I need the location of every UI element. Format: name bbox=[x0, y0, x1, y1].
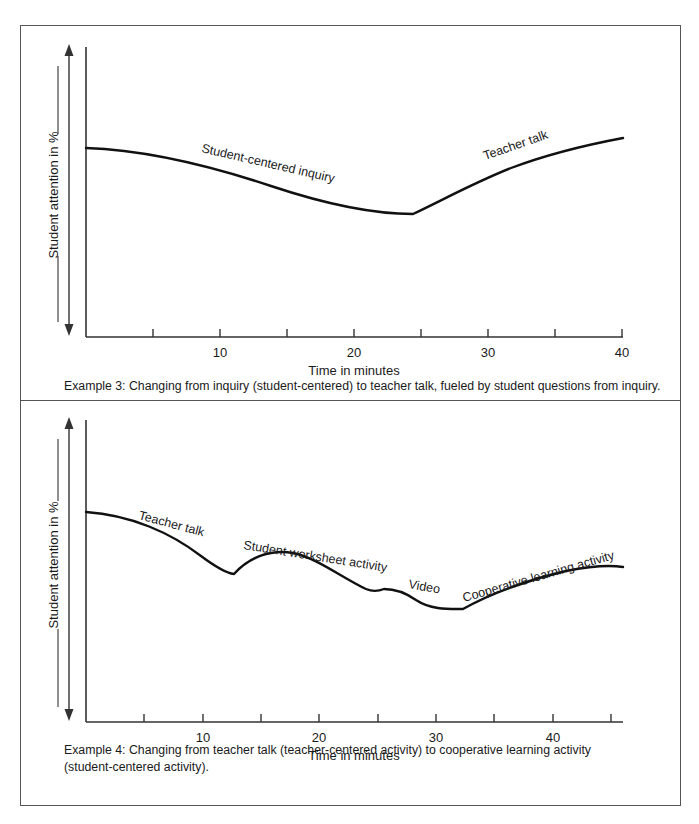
curve-label-teacher-talk: Teacher talk bbox=[137, 508, 206, 539]
curve-label-student-centered-inquiry: Student-centered inquiry bbox=[200, 141, 337, 185]
student-attention-curve bbox=[86, 138, 623, 214]
x-tick-label-30: 30 bbox=[481, 345, 495, 360]
x-tick-label-40: 40 bbox=[615, 345, 629, 360]
y-axis-arrow bbox=[65, 44, 74, 336]
y-axis-title: Student attention in % bbox=[46, 131, 61, 259]
caption-example-3: Example 3: Changing from inquiry (studen… bbox=[64, 378, 664, 395]
y-axis-arrow bbox=[65, 417, 74, 721]
x-axis-ticks bbox=[153, 329, 622, 337]
y-axis-title-group: Student attention in % bbox=[46, 439, 61, 707]
chart-panel-example-4: Student attention in % 10 20 30 40 Time … bbox=[21, 401, 680, 806]
curve-label-video: Video bbox=[407, 577, 441, 596]
curve-label-cooperative-learning-activity: Cooperative learning activity bbox=[461, 548, 617, 605]
chart-example-3: Student attention in % 10 20 30 40 bbox=[21, 26, 680, 400]
x-axis-title: Time in minutes bbox=[308, 363, 400, 378]
y-axis-title: Student attention in % bbox=[46, 501, 61, 629]
y-axis-title-group: Student attention in % bbox=[46, 66, 61, 322]
x-tick-label-10: 10 bbox=[213, 345, 227, 360]
x-axis-ticks bbox=[144, 714, 611, 722]
figure-frame: Student attention in % 10 20 30 40 bbox=[20, 25, 681, 806]
curve-label-student-worksheet-activity: Student worksheet activity bbox=[243, 538, 389, 575]
caption-example-4: Example 4: Changing from teacher talk (t… bbox=[64, 742, 624, 776]
chart-panel-example-3: Student attention in % 10 20 30 40 bbox=[21, 26, 680, 400]
x-tick-label-20: 20 bbox=[347, 345, 361, 360]
